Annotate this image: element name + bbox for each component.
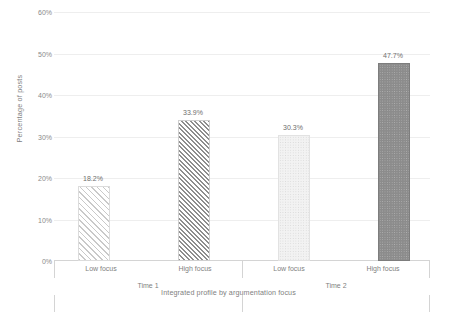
- y-tick-label: 60%: [18, 9, 52, 16]
- category-label-time1-high-focus: High focus: [148, 265, 242, 272]
- y-axis-tick-labels: 60% 50% 40% 30% 20% 10% 0%: [10, 0, 52, 314]
- category-label-time1-low-focus: Low focus: [54, 265, 148, 272]
- category-label-time2-high-focus: High focus: [336, 265, 430, 272]
- bar-time1-high-focus[interactable]: [178, 120, 210, 261]
- category-label-time2-low-focus: Low focus: [242, 265, 336, 272]
- group-tick: [54, 295, 55, 312]
- plot-area: 18.2% 33.9% 30.3% 47.7%: [54, 12, 430, 261]
- x-axis-title: Integrated profile by argumentation focu…: [0, 288, 457, 297]
- bar-time1-low-focus[interactable]: [78, 186, 110, 262]
- group-tick: [429, 295, 430, 312]
- y-tick-label: 20%: [18, 175, 52, 182]
- bar-value-label-time2-high-focus: 47.7%: [363, 52, 423, 59]
- bar-time2-high-focus[interactable]: [378, 63, 410, 261]
- y-tick-label: 30%: [18, 133, 52, 140]
- bar-value-label-time1-high-focus: 33.9%: [163, 109, 223, 116]
- bar-time2-low-focus[interactable]: [278, 135, 310, 261]
- bar-value-label-time2-low-focus: 30.3%: [263, 124, 323, 131]
- gridline-30: [54, 137, 430, 138]
- y-tick-label: 40%: [18, 92, 52, 99]
- gridline-10: [54, 220, 430, 221]
- y-tick-label: 50%: [18, 50, 52, 57]
- bar-value-label-time1-low-focus: 18.2%: [63, 175, 123, 182]
- gridline-60: [54, 12, 430, 13]
- y-tick-label: 10%: [18, 216, 52, 223]
- y-tick-label: 0%: [18, 258, 52, 265]
- category-axis-inner-row: Low focus High focus Low focus High focu…: [54, 261, 430, 278]
- bar-chart: Percentage of posts 60% 50% 40% 30% 20% …: [0, 0, 457, 314]
- gridline-40: [54, 95, 430, 96]
- group-tick: [242, 295, 243, 312]
